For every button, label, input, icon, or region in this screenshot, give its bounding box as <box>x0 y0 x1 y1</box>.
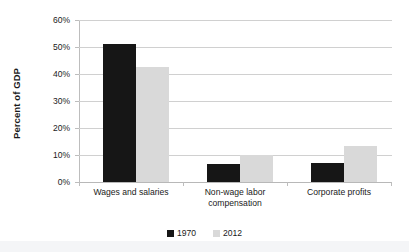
category-separator-end <box>391 182 392 186</box>
gridline-60 <box>79 20 392 21</box>
y-tick-label-20: 20% <box>0 123 70 133</box>
y-tick-label-50: 50% <box>0 42 70 52</box>
legend-label-1970: 1970 <box>177 228 196 238</box>
y-tick-label-10: 10% <box>0 150 70 160</box>
bar-2012-corporate-profits[interactable] <box>344 146 377 182</box>
bar-2012-wages-and-salaries[interactable] <box>136 67 169 182</box>
category-separator-2 <box>287 182 288 186</box>
legend-swatch-icon-2012 <box>213 230 220 237</box>
y-tick-label-30: 30% <box>0 96 70 106</box>
y-tick-label-40: 40% <box>0 69 70 79</box>
category-label-non-wage-labor-compensation: Non-wage labor compensation <box>183 187 287 209</box>
bottom-edge-band <box>0 241 409 252</box>
category-separator-1 <box>183 182 184 186</box>
y-tick-label-0: 0% <box>0 177 70 187</box>
category-separator-start <box>79 182 80 186</box>
bar-1970-non-wage-labor-compensation[interactable] <box>207 164 240 182</box>
legend-item-1970[interactable]: 1970 <box>167 228 196 238</box>
chart-legend: 1970 2012 <box>0 228 409 238</box>
bar-2012-non-wage-labor-compensation[interactable] <box>240 155 273 182</box>
category-label-wages-and-salaries: Wages and salaries <box>79 187 183 198</box>
gridline-baseline-0 <box>79 182 392 183</box>
bar-1970-corporate-profits[interactable] <box>311 163 344 182</box>
bar-1970-wages-and-salaries[interactable] <box>103 44 136 182</box>
category-label-corporate-profits: Corporate profits <box>287 187 391 198</box>
bar-chart: Percent of GDP 60% 50% 40% 30% 20% 10% 0… <box>0 0 409 252</box>
plot-area <box>79 20 392 182</box>
legend-item-2012[interactable]: 2012 <box>213 228 242 238</box>
y-tick-label-60: 60% <box>0 15 70 25</box>
x-axis-category-labels: Wages and salaries Non-wage labor compen… <box>79 187 392 219</box>
legend-label-2012: 2012 <box>223 228 242 238</box>
legend-swatch-icon-1970 <box>167 230 174 237</box>
